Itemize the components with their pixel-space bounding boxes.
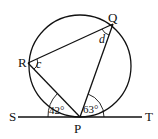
angle-label-c: c: [36, 57, 42, 71]
angle-label-63: 63°: [83, 103, 98, 115]
label-s: S: [9, 109, 16, 124]
label-t: T: [145, 109, 153, 124]
circle: [29, 15, 131, 117]
angle-label-d: d: [99, 32, 106, 46]
diagram-container: Q R P S T c d 42° 63°: [0, 0, 158, 139]
circle-tangent-diagram: Q R P S T c d 42° 63°: [0, 0, 158, 139]
label-q: Q: [108, 10, 118, 25]
label-r: R: [18, 55, 27, 70]
angle-label-42: 42°: [49, 104, 64, 116]
label-p: P: [74, 121, 81, 136]
